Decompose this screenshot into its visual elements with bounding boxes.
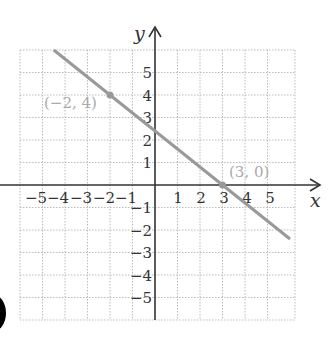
y-tick: 4: [142, 87, 152, 105]
x-tick: 2: [196, 189, 206, 207]
y-tick: 1: [142, 154, 152, 172]
point-marker-b: [219, 182, 226, 189]
y-axis-label: y: [133, 22, 145, 44]
data-line: [54, 50, 290, 239]
x-tick: −2: [93, 189, 115, 207]
x-tick: −3: [70, 189, 92, 207]
y-tick: −1: [130, 199, 152, 217]
x-tick: −4: [47, 189, 69, 207]
x-tick: 3: [219, 189, 229, 207]
cropped-black-circle: [0, 294, 6, 332]
x-tick: −5: [25, 189, 47, 207]
point-label-a: (−2, 4): [44, 94, 97, 112]
y-tick: 2: [142, 132, 152, 150]
y-tick: −2: [130, 222, 152, 240]
x-tick: 1: [173, 189, 183, 207]
coordinate-plane: x y −5 −4 −3 −2 −1 1 2 3 4 5 5 4 3 2 1 −…: [0, 0, 335, 338]
y-tick: −3: [130, 244, 152, 262]
y-tick: −4: [130, 267, 152, 285]
point-marker-a: [107, 92, 114, 99]
y-tick: 5: [142, 64, 152, 82]
y-tick: −5: [130, 289, 152, 307]
axes: [0, 27, 320, 320]
point-label-b: (3, 0): [229, 163, 269, 181]
x-tick: 5: [265, 189, 275, 207]
x-axis-label: x: [310, 189, 321, 211]
